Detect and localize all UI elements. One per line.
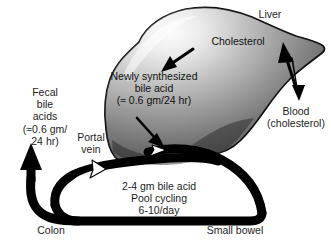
label-portal-vein: Portal vein bbox=[62, 131, 120, 155]
label-colon: Colon bbox=[22, 224, 80, 236]
label-blood: Blood (cholesterol) bbox=[262, 105, 330, 129]
label-small-bowel: Small bowel bbox=[190, 224, 280, 236]
fecal-excretion-arrow bbox=[20, 143, 42, 182]
bile-acid-enterohepatic-circulation-diagram: Liver Cholesterol Blood (cholesterol) Ne… bbox=[0, 0, 331, 242]
label-pool-cycling: 2-4 gm bile acid Pool cycling 6-10/day bbox=[95, 180, 223, 217]
label-newly-synthesized-bile-acid: Newly synthesized bile acid (≈ 0.6 gm/24… bbox=[94, 70, 214, 107]
label-cholesterol: Cholesterol bbox=[196, 35, 280, 47]
label-liver: Liver bbox=[240, 8, 300, 20]
